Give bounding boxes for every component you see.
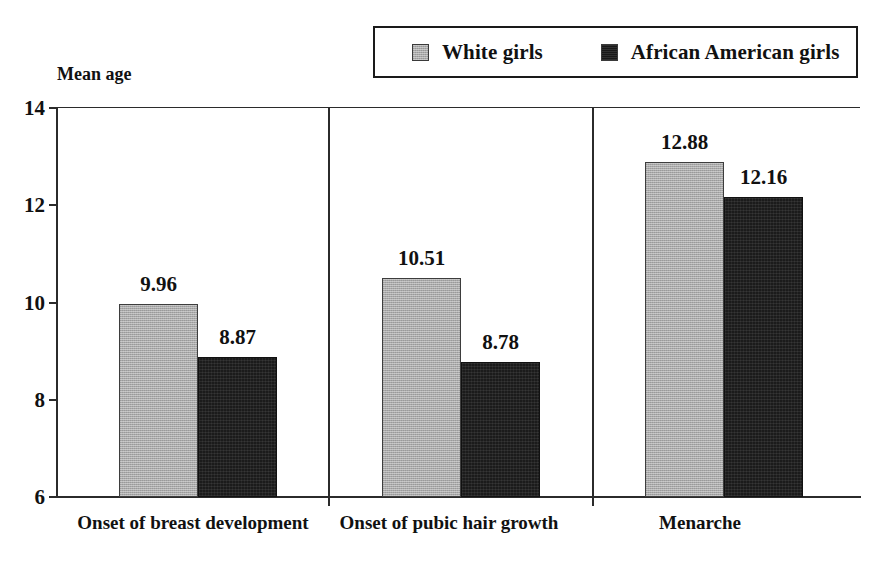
legend-entry-white-girls: White girls <box>412 40 543 65</box>
y-tick-mark <box>49 302 57 304</box>
legend-entry-african-american-girls: African American girls <box>601 40 840 65</box>
y-axis-title: Mean age <box>57 64 131 85</box>
bar-value-label: 12.16 <box>740 165 787 190</box>
panel-divider-1 <box>328 108 330 506</box>
black-swatch-icon <box>601 44 618 61</box>
bar-value-label: 9.96 <box>140 272 177 297</box>
y-tick-label: 6 <box>35 485 46 510</box>
y-tick-label: 14 <box>24 96 45 121</box>
y-tick-mark <box>49 496 57 498</box>
bar-value-label: 8.78 <box>482 330 519 355</box>
gray-swatch-icon <box>412 44 429 61</box>
bar-value-label: 12.88 <box>661 130 708 155</box>
category-label: Menarche <box>659 512 741 534</box>
plot-area: 14121086 9.968.8710.518.7812.8812.16 <box>57 108 860 497</box>
category-label: Onset of pubic hair growth <box>340 512 559 534</box>
y-tick-label: 12 <box>24 193 45 218</box>
plot-top-rule <box>57 107 860 108</box>
bar-white-girls <box>119 304 198 497</box>
bar-african-american-girls <box>461 362 540 497</box>
legend-label-african-american-girls: African American girls <box>631 40 840 65</box>
bar-african-american-girls <box>724 197 803 497</box>
bar-chart: White girls African American girls Mean … <box>0 0 879 565</box>
y-tick-label: 10 <box>24 290 45 315</box>
y-tick-mark <box>49 204 57 206</box>
chart-legend: White girls African American girls <box>373 26 858 78</box>
category-label: Onset of breast development <box>77 512 308 534</box>
bar-value-label: 8.87 <box>219 325 256 350</box>
y-tick-label: 8 <box>35 387 46 412</box>
y-tick-mark <box>49 107 57 109</box>
bar-white-girls <box>645 162 724 497</box>
legend-label-white-girls: White girls <box>442 40 543 65</box>
y-tick-mark <box>49 399 57 401</box>
bar-african-american-girls <box>198 357 277 497</box>
bar-white-girls <box>382 278 461 497</box>
bar-value-label: 10.51 <box>398 246 445 271</box>
panel-divider-2 <box>592 108 594 506</box>
